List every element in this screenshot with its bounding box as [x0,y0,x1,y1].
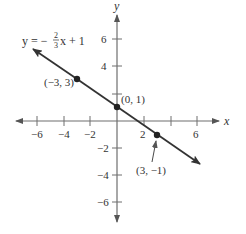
x-tick-label: 2 [140,128,146,140]
x-tick-label: 6 [193,128,199,140]
equation-denominator: 3 [54,41,58,50]
y-tick-label: 6 [101,33,107,45]
equation-rhs: x + 1 [60,34,85,48]
x-tick-label: −4 [58,128,70,140]
x-axis-label: x [223,114,230,128]
point-label: (3, −1) [136,164,166,177]
data-point [74,76,80,82]
point-label: (−3, 3) [44,76,74,89]
annotation-arrow [152,141,156,162]
y-tick-label: −4 [97,169,109,181]
y-tick-label: 4 [101,60,107,72]
x-tick-label: −6 [31,128,43,140]
data-point [154,132,160,138]
function-line [33,49,77,79]
equation-numerator: 2 [54,31,58,40]
coordinate-plane: x y −6 −4 −2 2 6 6 4 −2 −4 −6 (−3, 3) (0… [0,0,246,234]
y-axis-label: y [113,0,120,13]
x-tick-label: −2 [84,128,96,140]
data-point [114,104,120,110]
equation-lhs: y = − [22,34,48,48]
y-tick-label: −6 [97,196,109,208]
y-tick-label: −2 [97,142,109,154]
point-label: (0, 1) [121,93,145,106]
equation-label: y = − 2 3 x + 1 [22,31,85,50]
